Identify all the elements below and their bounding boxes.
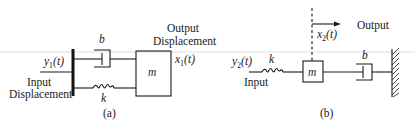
input-var-b: y2(t): [231, 55, 252, 70]
fixed-wall-icon: [392, 48, 399, 97]
mass-b-label: m: [308, 66, 316, 78]
caption-b: (b): [320, 107, 334, 120]
spring-b-label: k: [269, 53, 275, 65]
panel-a: b k m y1(t) Input Displacement Output Di…: [9, 22, 217, 120]
caption-a: (a): [103, 107, 116, 120]
spring-a-icon: [73, 85, 136, 89]
input-var-a: y1(t): [43, 55, 64, 70]
output-var-b: x2(t): [316, 28, 337, 43]
output-var-a: x1(t): [174, 53, 195, 68]
input-label-a-line2: Displacement: [9, 88, 73, 101]
mechanical-systems-diagram: b k m y1(t) Input Displacement Output Di…: [0, 0, 415, 125]
panel-b: b k m y2(t) Input Output x2(t) (b): [231, 8, 399, 120]
arrow-right-icon: [312, 22, 341, 27]
damper-b-label: b: [362, 49, 368, 61]
output-label-b: Output: [357, 19, 390, 32]
damper-a-icon: [73, 50, 136, 67]
spring-a-label: k: [101, 92, 107, 104]
spring-b-icon: [249, 69, 303, 73]
output-label-a-line2: Displacement: [153, 35, 217, 48]
damper-a-label: b: [99, 33, 105, 45]
input-label-b: Input: [244, 76, 269, 89]
damper-b-icon: [323, 64, 392, 80]
output-label-a-line1: Output: [167, 22, 200, 35]
mass-a-label: m: [148, 66, 156, 78]
